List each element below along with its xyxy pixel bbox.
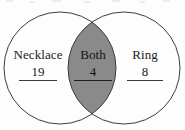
left-region-value: 19 <box>5 65 71 78</box>
intersection-region-value-underline <box>74 80 112 81</box>
intersection-region-label-group: Both 4 <box>70 48 116 81</box>
intersection-region-name: Both <box>70 48 116 61</box>
left-region-value-underline <box>19 80 57 81</box>
right-region-value-underline <box>127 80 163 81</box>
right-region-value: 8 <box>119 65 171 78</box>
venn-diagram-figure: Necklace 19 Both 4 Ring 8 <box>0 0 185 130</box>
intersection-region-value: 4 <box>70 65 116 78</box>
right-region-label-group: Ring 8 <box>119 48 171 81</box>
right-region-name: Ring <box>119 48 171 61</box>
left-region-name: Necklace <box>5 48 71 61</box>
left-region-label-group: Necklace 19 <box>5 48 71 81</box>
